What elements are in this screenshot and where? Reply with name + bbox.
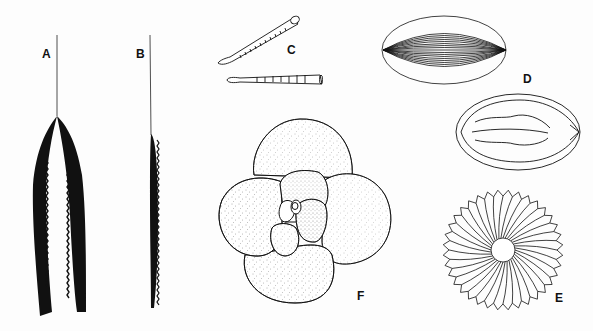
foraminifer-f bbox=[219, 119, 391, 303]
label-f: F bbox=[357, 290, 364, 302]
label-b: B bbox=[136, 48, 145, 60]
label-a: A bbox=[42, 48, 51, 60]
spicule-a bbox=[33, 35, 86, 316]
illustration-svg bbox=[0, 0, 593, 331]
spicule-b bbox=[150, 35, 159, 308]
label-c: C bbox=[287, 44, 296, 56]
label-e: E bbox=[555, 292, 563, 304]
rosette-e bbox=[443, 190, 563, 310]
spicule-c bbox=[218, 15, 323, 84]
figure-canvas: A B C D E F bbox=[0, 0, 593, 331]
body-d-section bbox=[456, 94, 580, 170]
label-d: D bbox=[523, 73, 532, 85]
body-d bbox=[382, 16, 506, 84]
